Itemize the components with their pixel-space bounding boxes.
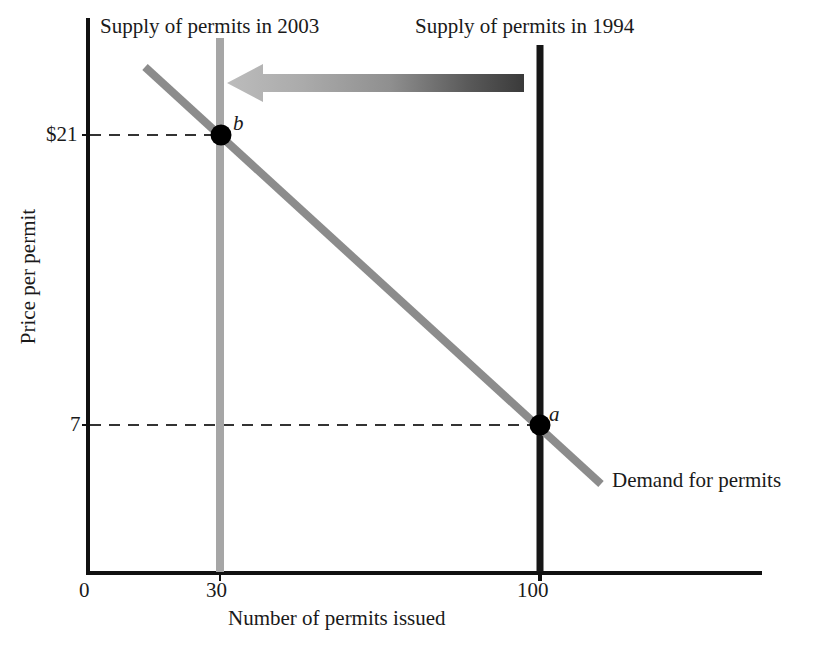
x-tick-label-30: 30 <box>206 580 227 601</box>
x-tick-label-0: 0 <box>79 580 90 601</box>
x-tick-label-100: 100 <box>517 580 549 601</box>
axis-ticks <box>82 135 540 581</box>
demand-curve-label: Demand for permits <box>612 470 781 491</box>
y-tick-label-21: $21 <box>46 124 78 145</box>
y-tick-label-7: 7 <box>70 414 81 435</box>
supply-1994-label: Supply of permits in 1994 <box>415 16 634 37</box>
x-axis-title: Number of permits issued <box>228 608 446 629</box>
supply-2003-label: Supply of permits in 2003 <box>100 16 319 37</box>
dashed-guide-lines <box>90 135 536 425</box>
point-b-label: b <box>233 113 244 134</box>
chart-figure: Supply of permits in 2003 Supply of perm… <box>0 0 817 651</box>
point-a-marker <box>530 415 551 436</box>
point-a-label: a <box>549 404 560 425</box>
shift-arrow <box>227 64 524 102</box>
chart-canvas <box>0 0 817 651</box>
point-b-marker <box>211 125 232 146</box>
y-axis-title: Price per permit <box>18 202 39 352</box>
